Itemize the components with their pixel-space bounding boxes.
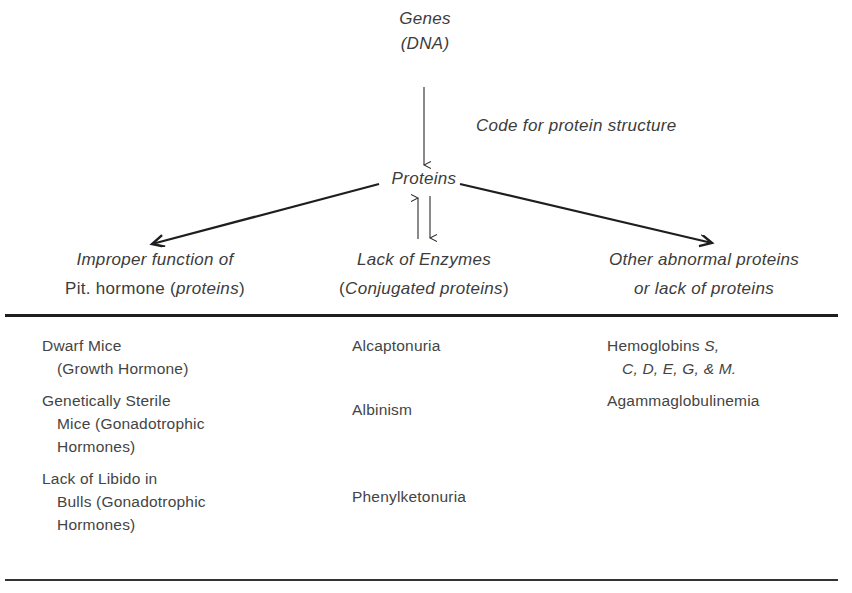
table-cell-alcaptonuria: Alcaptonuria	[352, 334, 466, 398]
arrow-proteins-to-other	[460, 184, 712, 243]
node-genes-label: Genes	[375, 6, 475, 31]
table-top-rule	[5, 314, 838, 317]
table-cell-sterile-mice: Genetically Sterile Mice (Gonadotrophic …	[42, 389, 206, 458]
branch-other-line1: Other abnormal proteins	[570, 245, 838, 274]
branch-pituitary-line2: Pit. hormone (proteins)	[20, 274, 290, 303]
branch-enzymes: Lack of Enzymes (Conjugated proteins)	[290, 245, 558, 303]
table-column-pituitary: Dwarf Mice (Growth Hormone) Genetically …	[42, 334, 206, 536]
branch-enzymes-line1: Lack of Enzymes	[290, 245, 558, 274]
branch-pituitary-line1: Improper function of	[20, 245, 290, 274]
branch-pituitary: Improper function of Pit. hormone (prote…	[20, 245, 290, 303]
branch-other: Other abnormal proteins or lack of prote…	[570, 245, 838, 303]
table-column-other: Hemoglobins S, C, D, E, G, & M. Agammagl…	[607, 334, 760, 412]
node-genes-sublabel: (DNA)	[375, 31, 475, 56]
arrow-proteins-to-pituitary	[152, 184, 379, 244]
table-cell-hemoglobins: Hemoglobins S, C, D, E, G, & M.	[607, 334, 760, 380]
branch-other-line2: or lack of proteins	[570, 274, 838, 303]
table-cell-phenylketonuria: Phenylketonuria	[352, 485, 466, 508]
table-cell-agammaglobulinemia: Agammaglobulinemia	[607, 389, 760, 412]
branch-enzymes-line2: (Conjugated proteins)	[290, 274, 558, 303]
node-proteins: Proteins	[374, 169, 474, 189]
table-column-enzymes: Alcaptonuria Albinism Phenylketonuria	[352, 334, 466, 508]
node-genes: Genes (DNA)	[375, 6, 475, 56]
table-bottom-rule	[5, 579, 838, 581]
table-cell-libido-bulls: Lack of Libido in Bulls (Gonadotrophic H…	[42, 467, 206, 536]
table-cell-albinism: Albinism	[352, 398, 466, 485]
table-cell-dwarf-mice: Dwarf Mice (Growth Hormone)	[42, 334, 206, 380]
edge-label-code: Code for protein structure	[476, 116, 677, 136]
